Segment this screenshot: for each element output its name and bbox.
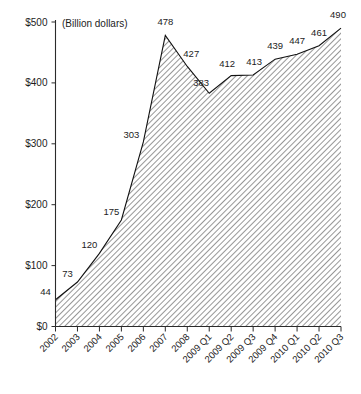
chart-container: $0$100$200$300$400$500 20022003200420052… [0,0,361,394]
data-point-label: 478 [157,16,173,27]
area-chart: $0$100$200$300$400$500 20022003200420052… [0,0,361,394]
y-tick-label: $500 [25,17,48,28]
data-point-label: 427 [183,48,199,59]
data-point-label: 413 [246,56,262,67]
y-tick-label: $100 [25,260,48,271]
data-point-label: 73 [62,268,73,279]
data-point-label: 303 [123,129,139,140]
data-point-label: 383 [193,77,209,88]
data-point-label: 490 [330,9,346,20]
unit-caption: (Billion dollars) [62,18,128,29]
data-point-label: 120 [81,239,97,250]
y-tick-label: $200 [25,199,48,210]
y-tick-label: $400 [25,77,48,88]
y-tick-label: $0 [36,321,48,332]
data-point-label: 175 [103,206,119,217]
y-tick-label: $300 [25,138,48,149]
data-point-label: 461 [311,27,327,38]
data-point-label: 447 [289,35,305,46]
data-point-label: 412 [219,58,235,69]
data-point-label: 439 [267,40,283,51]
data-point-label: 44 [40,286,51,297]
